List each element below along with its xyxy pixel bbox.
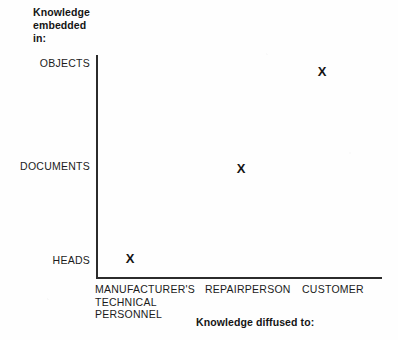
x-tick-label-manufacturer-line-2: TECHNICAL	[95, 296, 195, 309]
x-tick-label-manufacturer: MANUFACTURER'S TECHNICAL PERSONNEL	[95, 283, 195, 321]
x-tick-label-manufacturer-line-3: PERSONNEL	[95, 308, 195, 321]
y-axis-title-line-1: Knowledge	[33, 6, 119, 19]
y-tick-label-objects: OBJECTS	[40, 57, 90, 69]
data-point-marker-customer-objects: X	[318, 65, 327, 78]
x-tick-label-manufacturer-line-1: MANUFACTURER'S	[95, 283, 195, 296]
x-tick-label-customer: CUSTOMER	[302, 283, 364, 296]
x-tick-label-customer-line-1: CUSTOMER	[302, 283, 364, 296]
x-tick-label-repairperson-line-1: REPAIRPERSON	[205, 283, 291, 296]
y-axis-line	[96, 55, 98, 279]
knowledge-matrix-figure: Knowledge embedded in: OBJECTS DOCUMENTS…	[0, 0, 398, 340]
x-axis-line	[96, 277, 382, 279]
data-point-marker-manufacturer-heads: X	[126, 252, 135, 265]
x-tick-label-repairperson: REPAIRPERSON	[205, 283, 291, 296]
y-axis-title-line-3: in:	[33, 32, 119, 45]
y-axis-title: Knowledge embedded in:	[33, 6, 119, 46]
y-axis-title-line-2: embedded	[33, 19, 119, 32]
y-tick-label-heads: HEADS	[53, 254, 90, 266]
data-point-marker-repairperson-documents: X	[237, 162, 246, 175]
x-axis-title: Knowledge diffused to:	[196, 316, 314, 328]
y-tick-label-documents: DOCUMENTS	[20, 160, 90, 172]
